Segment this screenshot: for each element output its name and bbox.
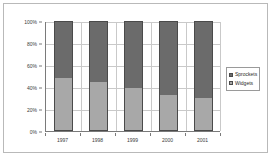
x-tick-label: 2001 (197, 137, 208, 143)
y-tick-mark (39, 66, 42, 67)
x-tick-mark (150, 133, 151, 136)
legend-item-widgets[interactable]: Widgets (229, 79, 257, 87)
gridline-vertical (81, 22, 82, 131)
gridline-vertical (220, 22, 221, 131)
x-tick-label: 1997 (57, 137, 68, 143)
y-tick-label: 0% (30, 129, 37, 135)
bar-segment-sprockets[interactable] (124, 21, 143, 88)
y-tick-label: 60% (27, 63, 37, 69)
x-tick-mark (220, 133, 221, 136)
y-tick-mark (39, 88, 42, 89)
x-tick-mark (185, 133, 186, 136)
gridline-vertical (186, 22, 187, 131)
chart-legend: SprocketsWidgets (226, 67, 260, 91)
legend-swatch-icon (229, 81, 233, 85)
gridline-vertical (116, 22, 117, 131)
legend-item-sprockets[interactable]: Sprockets (229, 71, 257, 79)
y-tick-label: 20% (27, 107, 37, 113)
x-tick-label: 1998 (92, 137, 103, 143)
legend-label: Sprockets (235, 72, 257, 77)
y-tick-label: 100% (24, 19, 37, 25)
legend-label: Widgets (235, 81, 253, 86)
x-tick-mark (80, 133, 81, 136)
x-tick-label: 1999 (127, 137, 138, 143)
y-tick-label: 40% (27, 85, 37, 91)
bar-group[interactable] (54, 21, 73, 131)
y-axis: 0%20%40%60%80%100% (4, 22, 42, 132)
x-tick-mark (115, 133, 116, 136)
bar-segment-widgets[interactable] (54, 78, 73, 131)
legend-swatch-icon (229, 73, 233, 77)
x-tick-label: 2000 (162, 137, 173, 143)
bar-segment-sprockets[interactable] (54, 21, 73, 78)
y-tick-mark (39, 22, 42, 23)
chart-frame: 0%20%40%60%80%100% 19971998199920002001 … (3, 3, 268, 153)
bar-segment-widgets[interactable] (194, 98, 213, 131)
x-tick-mark (45, 133, 46, 136)
plot-area (45, 22, 220, 132)
bar-group[interactable] (89, 21, 108, 131)
y-tick-label: 80% (27, 41, 37, 47)
bar-segment-widgets[interactable] (159, 95, 178, 131)
y-tick-mark (39, 110, 42, 111)
bar-group[interactable] (124, 21, 143, 131)
y-tick-mark (39, 44, 42, 45)
y-tick-mark (39, 132, 42, 133)
bar-segment-sprockets[interactable] (194, 21, 213, 98)
bar-segment-widgets[interactable] (124, 88, 143, 131)
bar-segment-sprockets[interactable] (89, 21, 108, 82)
x-axis: 19971998199920002001 (45, 133, 220, 147)
bar-group[interactable] (194, 21, 213, 131)
bar-segment-widgets[interactable] (89, 82, 108, 132)
gridline-vertical (151, 22, 152, 131)
bar-group[interactable] (159, 21, 178, 131)
bar-segment-sprockets[interactable] (159, 21, 178, 95)
